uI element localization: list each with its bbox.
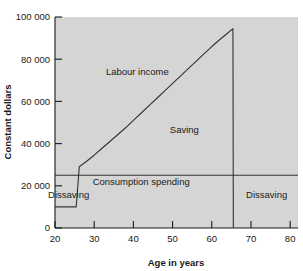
x-tick-label: 70 bbox=[246, 233, 257, 244]
lifecycle-income-chart: 020 00040 00060 00080 000100 000 2030405… bbox=[0, 0, 303, 271]
y-tick-label: 20 000 bbox=[21, 180, 50, 191]
x-tick-label: 30 bbox=[89, 233, 100, 244]
x-tick-label: 50 bbox=[167, 233, 178, 244]
y-tick-label: 0 bbox=[45, 222, 50, 233]
y-axis-tick-labels: 020 00040 00060 00080 000100 000 bbox=[16, 11, 50, 233]
region-label-dissaving: Dissaving bbox=[246, 189, 287, 200]
region-label-saving: Saving bbox=[170, 124, 199, 135]
x-tick-label: 40 bbox=[128, 233, 139, 244]
y-axis-title: Constant dollars bbox=[2, 85, 13, 160]
x-axis-title: Age in years bbox=[148, 257, 205, 268]
y-tick-label: 80 000 bbox=[21, 54, 50, 65]
region-label-dissaving: Dissaving bbox=[48, 189, 89, 200]
x-tick-label: 80 bbox=[285, 233, 296, 244]
chart-figure: 020 00040 00060 00080 000100 000 2030405… bbox=[0, 0, 303, 271]
region-label-consumption-spending: Consumption spending bbox=[93, 176, 190, 187]
y-tick-label: 40 000 bbox=[21, 138, 50, 149]
region-label-labour-income: Labour income bbox=[106, 66, 169, 77]
x-axis-tick-labels: 20304050607080 bbox=[50, 233, 296, 244]
x-tick-label: 60 bbox=[206, 233, 217, 244]
x-tick-label: 20 bbox=[50, 233, 61, 244]
y-tick-label: 100 000 bbox=[16, 11, 50, 22]
y-tick-label: 60 000 bbox=[21, 96, 50, 107]
